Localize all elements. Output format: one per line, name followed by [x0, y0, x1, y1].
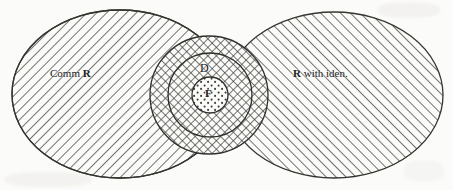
venn-svg-canvas	[0, 0, 453, 190]
label-comm-r-bold: R	[83, 67, 91, 79]
label-comm-r-prefix: Comm	[50, 67, 83, 79]
label-r-iden-bold: R	[293, 67, 301, 79]
label-r-with-iden: R with iden.	[293, 68, 348, 79]
venn-diagram-figure: Comm R R with iden. D F	[0, 0, 453, 190]
label-f: F	[205, 88, 212, 99]
label-comm-r: Comm R	[50, 68, 91, 79]
label-d: D	[200, 62, 209, 74]
label-r-iden-suffix: with iden.	[301, 67, 348, 79]
